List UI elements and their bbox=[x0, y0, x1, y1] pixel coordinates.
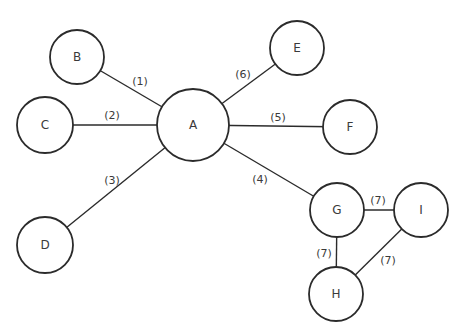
edge-label-a-g: (4) bbox=[252, 173, 268, 186]
edge-label-h-i: (7) bbox=[380, 254, 396, 267]
edge-label-a-c: (2) bbox=[104, 109, 120, 122]
node-label-g: G bbox=[332, 203, 341, 217]
edge-label-g-i: (7) bbox=[370, 194, 386, 207]
nodes-group: ABCDEFGIH bbox=[17, 21, 448, 321]
node-label-e: E bbox=[293, 41, 301, 55]
node-d: D bbox=[17, 217, 73, 273]
node-label-c: C bbox=[41, 118, 49, 132]
edge-label-a-b: (1) bbox=[132, 75, 148, 88]
node-g: G bbox=[310, 183, 364, 237]
edge-label-a-f: (5) bbox=[270, 111, 286, 124]
node-c: C bbox=[17, 97, 73, 153]
node-h: H bbox=[309, 267, 363, 321]
edges-group bbox=[45, 48, 421, 294]
node-b: B bbox=[50, 30, 104, 84]
node-a: A bbox=[157, 89, 229, 161]
node-label-h: H bbox=[331, 287, 340, 301]
edge-label-g-h: (7) bbox=[316, 247, 332, 260]
edge-labels-group: (1)(2)(3)(4)(5)(6)(7)(7)(7) bbox=[104, 68, 396, 267]
node-label-f: F bbox=[347, 120, 354, 134]
node-f: F bbox=[323, 100, 377, 154]
edge-label-a-d: (3) bbox=[104, 174, 120, 187]
node-e: E bbox=[270, 21, 324, 75]
network-diagram: ABCDEFGIH (1)(2)(3)(4)(5)(6)(7)(7)(7) bbox=[0, 0, 462, 335]
node-i: I bbox=[394, 183, 448, 237]
node-label-b: B bbox=[73, 50, 81, 64]
node-label-i: I bbox=[419, 203, 423, 217]
node-label-a: A bbox=[189, 118, 198, 132]
node-label-d: D bbox=[40, 238, 49, 252]
edge-label-a-e: (6) bbox=[235, 68, 251, 81]
